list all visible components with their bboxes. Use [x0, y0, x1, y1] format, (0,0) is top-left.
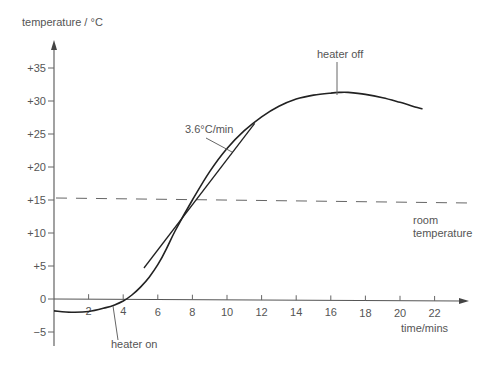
y-tick-label: +30 — [27, 95, 46, 107]
x-tick-label: 10 — [221, 306, 233, 318]
x-axis-title: time/mins — [401, 322, 449, 334]
y-tick-label: 0 — [40, 293, 46, 305]
x-tick-label: 12 — [255, 306, 267, 318]
slope-leader-line — [206, 138, 232, 152]
heater-on-leader-line — [113, 306, 118, 340]
room-temperature-label-1: room — [413, 214, 438, 226]
y-tick-label: +20 — [27, 161, 46, 173]
heater-on-label: heater on — [111, 338, 157, 350]
temperature-curve — [54, 92, 423, 312]
y-tick-label: +25 — [27, 128, 46, 140]
heater-off-label: heater off — [317, 48, 364, 60]
y-tick-label: −5 — [33, 326, 46, 338]
x-tick-label: 6 — [155, 306, 161, 318]
x-ticks: 246810121416182022 — [86, 294, 441, 319]
x-tick-label: 22 — [428, 307, 440, 319]
room-temperature-label-2: temperature — [413, 227, 472, 239]
slope-label: 3.6°C/min — [185, 123, 233, 135]
x-axis — [54, 299, 462, 301]
x-axis-arrow-icon — [459, 298, 469, 304]
y-tick-label: +15 — [27, 194, 46, 206]
x-tick-label: 4 — [120, 305, 126, 317]
x-tick-label: 14 — [290, 306, 302, 318]
y-tick-label: +5 — [33, 260, 46, 272]
x-tick-label: 16 — [325, 306, 337, 318]
x-tick-label: 18 — [359, 307, 371, 319]
y-tick-label: +35 — [27, 62, 46, 74]
tangent-line — [144, 123, 255, 268]
y-tick-label: +10 — [27, 227, 46, 239]
temperature-time-chart: +35+30+25+20+15+10+50−5 2468101214161820… — [0, 0, 486, 369]
x-tick-label: 8 — [189, 306, 195, 318]
y-axis-title: temperature / °C — [22, 16, 103, 28]
room-temperature-line — [56, 198, 470, 203]
x-tick-label: 20 — [394, 307, 406, 319]
y-ticks: +35+30+25+20+15+10+50−5 — [27, 62, 54, 338]
y-axis-arrow-icon — [51, 40, 57, 50]
